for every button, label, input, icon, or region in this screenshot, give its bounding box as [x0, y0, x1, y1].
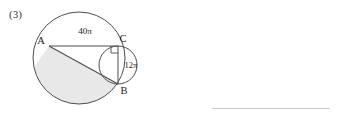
worksheet-page: (3) A C B 40π 12π [0, 0, 342, 121]
arc-length-label-AC: 40π [78, 26, 92, 36]
point-label-B: B [120, 85, 127, 96]
point-label-A: A [37, 35, 45, 46]
point-label-C: C [119, 33, 126, 44]
arc-length-label-CB: 12π [125, 60, 139, 70]
circle-geometry-figure: A C B 40π 12π [0, 0, 175, 121]
answer-blank-line[interactable] [212, 108, 330, 109]
